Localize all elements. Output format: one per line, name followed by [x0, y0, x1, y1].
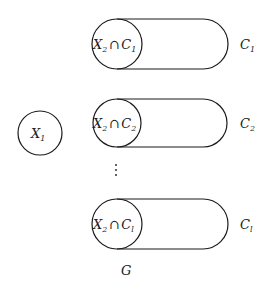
x1-label: X1 — [30, 126, 45, 143]
component-label-c1: C1 — [240, 37, 255, 54]
intersection-label-2: X2∩C2 — [92, 116, 136, 133]
component-group-1: X2∩C1 C1 — [92, 19, 255, 69]
component-group-l: X2∩Cl Cl — [92, 199, 253, 249]
intersection-label-1: X2∩C1 — [92, 37, 136, 54]
x1-node: X1 — [18, 111, 62, 155]
component-label-c2: C2 — [240, 116, 255, 133]
component-group-2: X2∩C2 C2 — [92, 99, 255, 147]
intersection-label-l: X2∩Cl — [92, 217, 134, 234]
component-cl-stadium — [117, 199, 228, 249]
diagram-canvas: X1 X2∩C1 C1 X2∩C2 C2 X2∩Cl Cl G — [0, 0, 266, 290]
component-c1-stadium — [117, 19, 228, 69]
graph-caption: G — [121, 263, 131, 278]
component-label-cl: Cl — [240, 217, 253, 234]
vertical-ellipsis — [115, 164, 117, 176]
